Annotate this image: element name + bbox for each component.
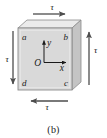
corner-label-a: a bbox=[22, 32, 27, 42]
corner-label-d: d bbox=[22, 78, 27, 88]
tau-label-left: τ bbox=[5, 54, 9, 64]
axis-origin-label: O bbox=[34, 58, 41, 68]
figure-caption: (b) bbox=[0, 124, 107, 135]
tau-label-top: τ bbox=[50, 2, 54, 12]
tau-label-right: τ bbox=[94, 45, 98, 55]
cube-shear-diagram: a b c d O y x τ τ τ τ bbox=[0, 0, 107, 138]
axis-x-label: x bbox=[59, 63, 65, 73]
corner-label-c: c bbox=[64, 78, 68, 88]
axis-y-label: y bbox=[46, 38, 52, 48]
shear-stress-figure: a b c d O y x τ τ τ τ (b) bbox=[0, 0, 107, 138]
tau-label-bottom: τ bbox=[45, 102, 49, 112]
block-right-face bbox=[72, 20, 81, 90]
corner-label-b: b bbox=[64, 32, 69, 42]
block-top-face bbox=[18, 20, 81, 28]
